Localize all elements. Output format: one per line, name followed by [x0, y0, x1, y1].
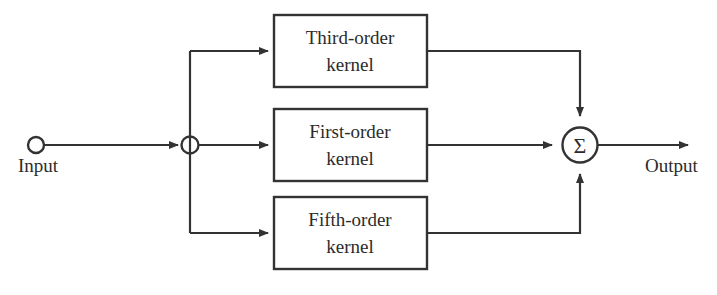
block-fifth-order-kernel-line2: kernel	[326, 236, 373, 257]
block-third-order-kernel[interactable]	[274, 15, 427, 87]
wire-fifth-order-to-sum	[427, 174, 580, 233]
block-diagram: Input Third-order kernel First-order ker…	[0, 0, 717, 295]
block-fifth-order-kernel-line1: Fifth-order	[308, 209, 392, 230]
sigma-glyph-icon: Σ	[574, 133, 587, 158]
block-first-order-kernel-line1: First-order	[309, 121, 391, 142]
wire-third-order-to-sum	[427, 51, 580, 116]
input-terminal-circle-icon	[28, 137, 44, 153]
output-label: Output	[645, 155, 699, 176]
block-first-order-kernel[interactable]	[274, 109, 427, 181]
block-third-order-kernel-line2: kernel	[326, 54, 373, 75]
input-label: Input	[18, 155, 59, 176]
block-fifth-order-kernel[interactable]	[274, 197, 427, 269]
block-third-order-kernel-line1: Third-order	[306, 27, 395, 48]
block-first-order-kernel-line2: kernel	[326, 148, 373, 169]
diagram-canvas: Input Third-order kernel First-order ker…	[0, 0, 717, 295]
